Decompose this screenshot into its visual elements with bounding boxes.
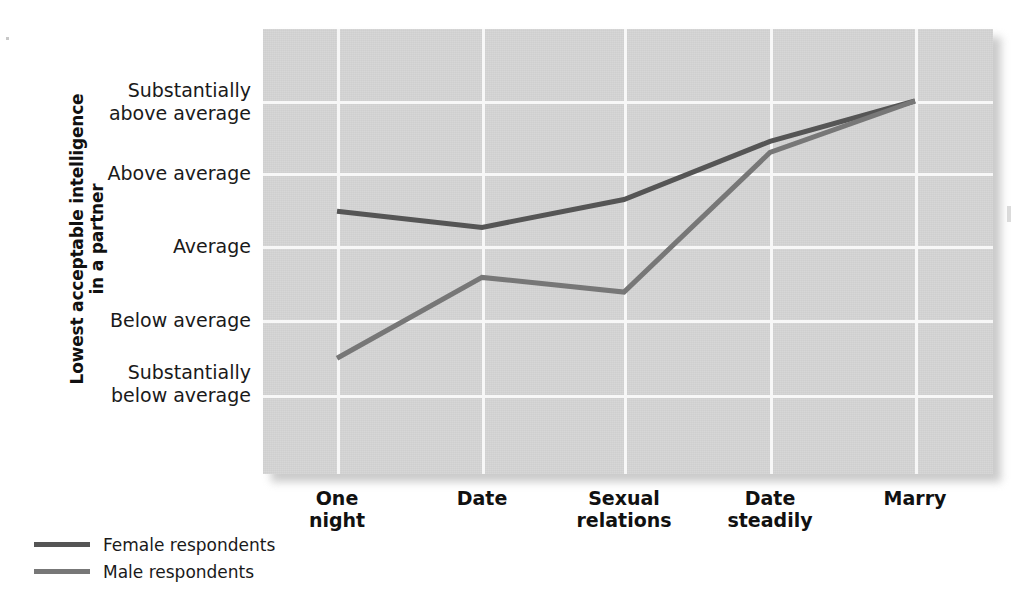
y-tick-line2: below average	[1, 384, 251, 407]
y-tick-line1: Average	[1, 235, 251, 258]
y-tick-line2: above average	[1, 102, 251, 125]
x-tick-line2: night	[252, 509, 422, 531]
y-tick-line1: Substantially	[1, 361, 251, 384]
x-tick-line2: steadily	[685, 509, 855, 531]
legend-swatch-female	[34, 542, 90, 547]
y-tick-line1: Above average	[1, 162, 251, 185]
legend-swatch-male	[34, 569, 90, 574]
x-tick-label-marry: Marry	[830, 487, 1000, 509]
x-tick-line1: Marry	[830, 487, 1000, 509]
y-tick-label-substantially-below-average: Substantially below average	[1, 361, 251, 407]
scan-artifact	[6, 37, 9, 40]
line-female-respondents	[337, 101, 915, 227]
plot-area	[263, 29, 993, 474]
series-lines	[263, 29, 993, 474]
y-tick-label-substantially-above-average: Substantially above average	[1, 79, 251, 125]
chart-legend: Female respondents Male respondents	[34, 531, 275, 585]
legend-item-male: Male respondents	[34, 558, 275, 585]
y-tick-label-below-average: Below average	[1, 309, 251, 332]
x-tick-line2: relations	[539, 509, 709, 531]
y-tick-label-average: Average	[1, 235, 251, 258]
y-tick-label-above-average: Above average	[1, 162, 251, 185]
legend-label-female: Female respondents	[103, 535, 275, 555]
line-male-respondents	[337, 101, 915, 358]
scan-artifact	[1007, 206, 1011, 222]
legend-item-female: Female respondents	[34, 531, 275, 558]
x-tick-label-sexual-relations: Sexual relations	[539, 487, 709, 531]
y-tick-line1: Below average	[1, 309, 251, 332]
chart-figure: Lowest acceptable intelligence in a part…	[0, 0, 1020, 589]
x-tick-line1: Sexual	[539, 487, 709, 509]
legend-label-male: Male respondents	[103, 562, 254, 582]
y-tick-line1: Substantially	[1, 79, 251, 102]
